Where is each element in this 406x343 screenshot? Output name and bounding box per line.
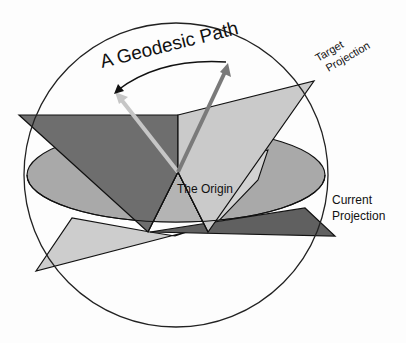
current-projection-label-line1: Current — [332, 193, 373, 207]
current-projection-label-line2: Projection — [332, 209, 385, 223]
geodesic-diagram: A Geodesic Path Target Projection Curren… — [0, 0, 406, 343]
geodesic-path-label: A Geodesic Path — [98, 17, 240, 72]
diagram-canvas: A Geodesic Path Target Projection Curren… — [0, 0, 406, 343]
lower-left-plane — [36, 218, 190, 271]
origin-label: The Origin — [177, 182, 233, 196]
geodesic-arrowhead-icon — [114, 84, 124, 94]
geodesic-arc — [118, 62, 226, 90]
